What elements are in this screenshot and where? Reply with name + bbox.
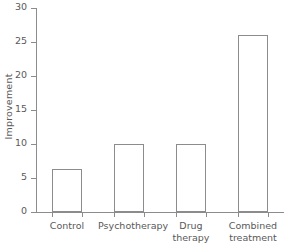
- x-tick: [82, 212, 83, 217]
- y-axis-spine: [36, 8, 37, 212]
- bar: [52, 169, 82, 212]
- y-tick: 10: [31, 144, 36, 145]
- y-axis-label-text: Improvement: [3, 73, 14, 139]
- y-axis-label: Improvement: [0, 0, 16, 212]
- x-tick: [206, 212, 207, 217]
- y-tick-label: 10: [15, 137, 27, 148]
- x-tick: [176, 212, 177, 217]
- y-tick-label: 20: [15, 69, 27, 80]
- x-tick-label: Drug therapy: [160, 220, 222, 243]
- y-tick: 15: [31, 110, 36, 111]
- y-tick: 30: [31, 8, 36, 9]
- x-tick-label: Control: [36, 220, 98, 232]
- y-tick-label: 0: [21, 205, 27, 216]
- x-tick-label: Psychotherapy: [98, 220, 160, 232]
- bar: [114, 144, 144, 212]
- y-tick-label: 15: [15, 103, 27, 114]
- y-tick: 25: [31, 42, 36, 43]
- x-axis-spine: [36, 212, 284, 213]
- x-tick: [114, 212, 115, 217]
- x-tick: [52, 212, 53, 217]
- x-tick: [238, 212, 239, 217]
- y-tick-label: 30: [15, 1, 27, 12]
- bar: [176, 144, 206, 212]
- y-tick-label: 5: [21, 171, 27, 182]
- y-tick: 20: [31, 76, 36, 77]
- y-tick: 5: [31, 178, 36, 179]
- x-tick-label: Combined treatment: [222, 220, 284, 243]
- plot-area: 051015202530 ControlPsychotherapyDrug th…: [36, 8, 284, 212]
- x-tick: [268, 212, 269, 217]
- bar-chart-figure: Improvement 051015202530 ControlPsychoth…: [0, 0, 299, 244]
- y-tick: 0: [31, 212, 36, 213]
- y-tick-label: 25: [15, 35, 27, 46]
- bar: [238, 35, 268, 212]
- x-tick: [144, 212, 145, 217]
